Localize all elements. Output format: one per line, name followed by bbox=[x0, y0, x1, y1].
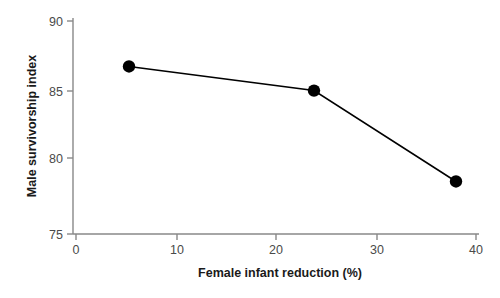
x-tick-label-10: 10 bbox=[170, 243, 184, 257]
data-point-marker bbox=[123, 60, 135, 72]
y-tick-label-75: 75 bbox=[49, 228, 63, 242]
line-chart: 90 85 80 75 0 10 20 30 40 Female infant … bbox=[0, 0, 500, 298]
y-tick-label-90: 90 bbox=[49, 15, 63, 29]
y-tick-label-80: 80 bbox=[49, 152, 63, 166]
chart-figure: 90 85 80 75 0 10 20 30 40 Female infant … bbox=[0, 0, 500, 298]
data-point-marker bbox=[308, 84, 320, 96]
x-tick-label-30: 30 bbox=[370, 243, 384, 257]
x-axis-title: Female infant reduction (%) bbox=[198, 266, 362, 280]
y-axis-title: Male survivorship index bbox=[25, 55, 39, 197]
data-point-marker bbox=[450, 175, 462, 187]
x-tick-label-20: 20 bbox=[269, 243, 283, 257]
x-tick-label-40: 40 bbox=[469, 243, 483, 257]
x-tick-label-0: 0 bbox=[73, 243, 80, 257]
y-tick-label-85: 85 bbox=[49, 85, 63, 99]
